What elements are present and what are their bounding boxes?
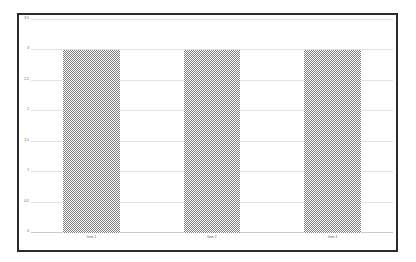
x-axis-tick-label: Item 1 [87,236,96,239]
y-axis-tick-label: 3.5 [24,17,29,20]
gridline: 3.5 [31,19,393,20]
y-axis-tick-label: 0 [27,230,29,233]
x-axis-tick-label: Item 3 [328,236,337,239]
figure: 00.511.522.533.5Item 1Item 2Item 3 [0,0,416,262]
plot-inner: 00.511.522.533.5Item 1Item 2Item 3 [19,15,396,250]
y-axis-tick-label: 1 [27,170,29,173]
y-axis-tick-label: 2 [27,109,29,112]
y-axis-tick-label: 2.5 [24,78,29,81]
y-axis-tick-label: 1.5 [24,139,29,142]
y-axis-tick-label: 3 [27,48,29,51]
x-axis-tick-label: Item 2 [207,236,216,239]
bar [184,50,241,233]
bar [304,50,361,233]
plot-area: 00.511.522.533.5Item 1Item 2Item 3 [31,20,393,233]
bar [63,50,120,233]
plot-frame: 00.511.522.533.5Item 1Item 2Item 3 [17,13,398,252]
y-axis-tick-label: 0.5 [24,200,29,203]
